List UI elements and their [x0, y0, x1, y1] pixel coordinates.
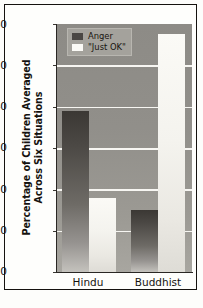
y-tick-label-60: 60 [0, 19, 7, 29]
chart-legend: Anger "Just OK" [67, 28, 132, 56]
y-tick-label-0: 0 [0, 266, 7, 276]
x-axis-line [56, 272, 193, 273]
y-tick-label-40: 40 [0, 101, 7, 111]
plot-area: Anger "Just OK" [57, 24, 192, 272]
legend-item-just-ok: "Just OK" [72, 43, 126, 52]
bar-buddhist-anger [131, 210, 158, 272]
y-tick-label-30: 30 [0, 142, 7, 152]
legend-label-anger: Anger [88, 32, 113, 41]
legend-item-anger: Anger [72, 32, 126, 41]
y-axis-title-line-2: Across Six Situations [32, 92, 43, 204]
x-tick-label-buddhist: Buddhist [124, 276, 192, 288]
legend-swatch-just-ok-icon [72, 44, 83, 51]
bar-hindu-just-ok [89, 198, 116, 272]
y-tick-label-10: 10 [0, 225, 7, 235]
bar-hindu-anger [62, 111, 89, 272]
y-tick-label-20: 20 [0, 184, 7, 194]
legend-swatch-anger-icon [72, 33, 83, 40]
y-axis-title-line-1: Percentage of Children Averaged [21, 59, 32, 235]
legend-label-just-ok: "Just OK" [88, 43, 126, 52]
chart-figure: Percentage of Children Averaged Across S… [0, 0, 203, 308]
x-tick-label-hindu: Hindu [57, 276, 119, 288]
y-axis-title: Percentage of Children Averaged Across S… [21, 30, 44, 266]
bar-buddhist-just-ok [158, 34, 185, 272]
y-tick-label-50: 50 [0, 60, 7, 70]
